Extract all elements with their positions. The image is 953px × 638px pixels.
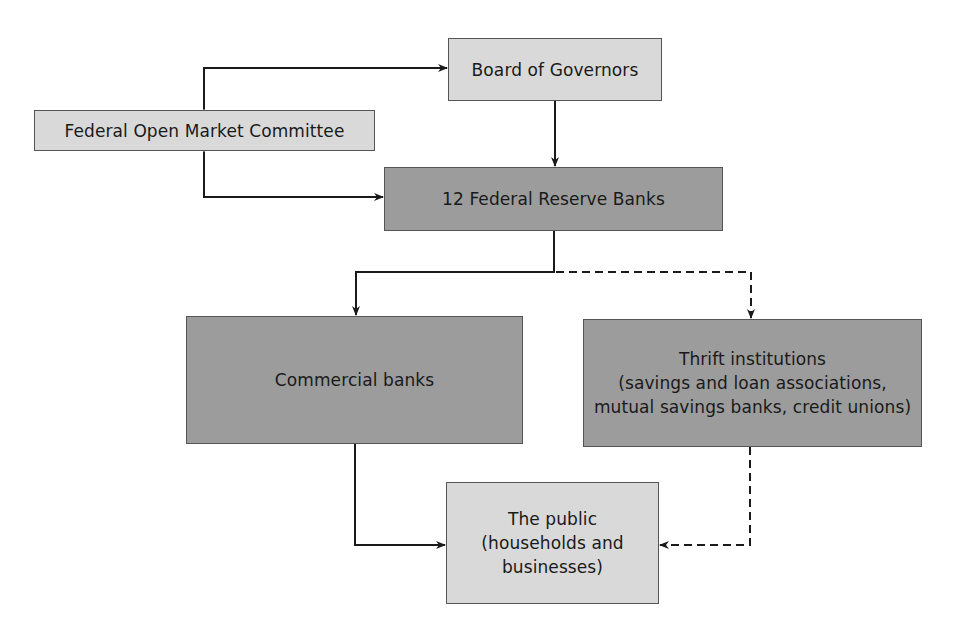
fomc-board-arrow	[204, 68, 447, 109]
public-label-line2: (households and	[481, 531, 623, 555]
fomc-reserve-arrow	[204, 152, 383, 197]
reserve-thrift-arrow	[556, 272, 751, 318]
commercial-banks-label: Commercial banks	[275, 368, 434, 392]
board-of-governors-label: Board of Governors	[472, 58, 639, 82]
thrift-label-line1: Thrift institutions	[679, 347, 826, 371]
thrift-label-line3: mutual savings banks, credit unions)	[594, 395, 911, 419]
commercial-banks-box: Commercial banks	[186, 316, 523, 444]
reserve-commercial-arrow	[356, 231, 554, 315]
board-of-governors-box: Board of Governors	[448, 38, 662, 101]
thrift-institutions-box: Thrift institutions (savings and loan as…	[583, 319, 922, 447]
thrift-public-arrow	[660, 447, 750, 545]
public-label-line3: businesses)	[502, 555, 603, 579]
fomc-label: Federal Open Market Committee	[64, 119, 344, 143]
public-box: The public (households and businesses)	[446, 482, 659, 604]
federal-reserve-banks-label: 12 Federal Reserve Banks	[442, 187, 665, 211]
public-label-line1: The public	[508, 507, 597, 531]
federal-reserve-banks-box: 12 Federal Reserve Banks	[384, 167, 723, 231]
thrift-label-line2: (savings and loan associations,	[618, 371, 887, 395]
fomc-box: Federal Open Market Committee	[34, 110, 375, 151]
commercial-public-arrow	[355, 444, 445, 545]
